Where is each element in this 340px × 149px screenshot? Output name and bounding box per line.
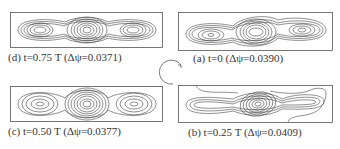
streamline-contour-plot-b — [178, 85, 334, 125]
panel-c: (c) t=0.50 T (Δψ=0.0377) — [10, 86, 164, 124]
panel-a: (a) t=0 (Δψ=0.0390) — [178, 12, 334, 52]
streamline-contour-plot-c — [10, 86, 164, 124]
caption-d: (d) t=0.75 T (Δψ=0.0371) — [8, 51, 122, 63]
panel-b: (b) t=0.25 T (Δψ=0.0409) — [178, 85, 334, 125]
streamline-contour-plot-a — [178, 12, 334, 52]
caption-b: (b) t=0.25 T (Δψ=0.0409) — [188, 126, 302, 138]
caption-a: (a) t=0 (Δψ=0.0390) — [193, 52, 283, 64]
streamline-contour-plot-d — [10, 12, 164, 50]
panel-d: (d) t=0.75 T (Δψ=0.0371) — [10, 12, 164, 50]
caption-c: (c) t=0.50 T (Δψ=0.0377) — [8, 125, 121, 137]
